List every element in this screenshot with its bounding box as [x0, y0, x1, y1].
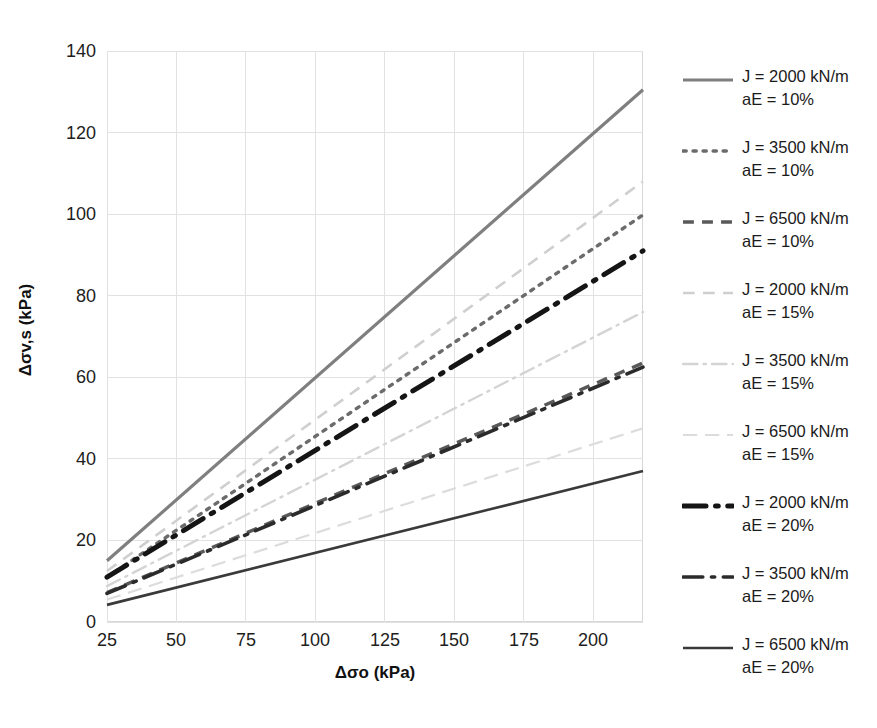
x-tick-label: 25	[77, 631, 137, 649]
legend-item[interactable]: J = 3500 kN/m aE = 20%	[660, 562, 877, 616]
y-tick-label: 120	[50, 124, 96, 142]
x-tick-label: 175	[494, 631, 554, 649]
legend-item-line1: J = 3500 kN/m	[742, 136, 877, 159]
legend-item[interactable]: J = 6500 kN/m aE = 20%	[660, 633, 877, 687]
legend-item-text: J = 2000 kN/m aE = 10%	[742, 65, 877, 111]
y-tick-label: 140	[50, 42, 96, 60]
legend-item-line1: J = 3500 kN/m	[742, 349, 877, 372]
legend-item[interactable]: J = 2000 kN/m aE = 10%	[660, 65, 877, 119]
plot-area	[107, 51, 643, 622]
legend-item-line1: J = 6500 kN/m	[742, 207, 877, 230]
legend-item-line1: J = 6500 kN/m	[742, 633, 877, 656]
legend-item-line2: aE = 15%	[742, 372, 877, 395]
legend-swatch-line	[682, 144, 734, 158]
legend-swatch-line	[682, 215, 734, 229]
legend-item-line2: aE = 10%	[742, 230, 877, 253]
y-tick-label: 20	[50, 531, 96, 549]
y-tick-label: 60	[50, 368, 96, 386]
legend-item-line1: J = 2000 kN/m	[742, 278, 877, 301]
legend-item-text: J = 2000 kN/m aE = 15%	[742, 278, 877, 324]
x-tick-label: 150	[424, 631, 484, 649]
legend-item-line2: aE = 20%	[742, 514, 877, 537]
y-tick-label: 40	[50, 450, 96, 468]
page-footer-artifact	[18, 707, 238, 719]
x-axis-title: Δσo (kPa)	[107, 663, 643, 683]
legend-item-line2: aE = 15%	[742, 301, 877, 324]
legend-swatch-line	[682, 286, 734, 300]
legend-item-text: J = 3500 kN/m aE = 10%	[742, 136, 877, 182]
x-tick-label: 200	[563, 631, 623, 649]
legend-swatch-line	[682, 641, 734, 655]
legend-item[interactable]: J = 6500 kN/m aE = 15%	[660, 420, 877, 474]
legend-item-text: J = 2000 kN/m aE = 20%	[742, 491, 877, 537]
y-tick-label: 80	[50, 287, 96, 305]
legend-item-line2: aE = 20%	[742, 656, 877, 679]
legend: J = 2000 kN/m aE = 10% J = 3500 kN/m aE …	[660, 51, 877, 651]
legend-item-line2: aE = 20%	[742, 585, 877, 608]
x-tick-label: 100	[285, 631, 345, 649]
legend-item-line1: J = 2000 kN/m	[742, 65, 877, 88]
legend-item[interactable]: J = 2000 kN/m aE = 20%	[660, 491, 877, 545]
legend-item-text: J = 3500 kN/m aE = 20%	[742, 562, 877, 608]
legend-item-line2: aE = 10%	[742, 88, 877, 111]
legend-item[interactable]: J = 3500 kN/m aE = 10%	[660, 136, 877, 190]
legend-item-line1: J = 3500 kN/m	[742, 562, 877, 585]
x-tick-label: 75	[216, 631, 276, 649]
legend-item[interactable]: J = 2000 kN/m aE = 15%	[660, 278, 877, 332]
y-tick-label: 0	[50, 613, 96, 631]
legend-item-text: J = 6500 kN/m aE = 20%	[742, 633, 877, 679]
legend-item-text: J = 6500 kN/m aE = 10%	[742, 207, 877, 253]
legend-item-line2: aE = 15%	[742, 443, 877, 466]
legend-swatch-line	[682, 499, 734, 513]
legend-item-line1: J = 6500 kN/m	[742, 420, 877, 443]
legend-item[interactable]: J = 3500 kN/m aE = 15%	[660, 349, 877, 403]
y-axis-title: Δσv,s (kPa)	[16, 260, 36, 400]
legend-swatch-line	[682, 570, 734, 584]
legend-item-line1: J = 2000 kN/m	[742, 491, 877, 514]
legend-swatch-line	[682, 428, 734, 442]
legend-item-text: J = 3500 kN/m aE = 15%	[742, 349, 877, 395]
legend-item[interactable]: J = 6500 kN/m aE = 10%	[660, 207, 877, 261]
x-tick-label: 125	[355, 631, 415, 649]
y-axis-tick-labels: 140 120 100 80 60 40 20 0	[0, 0, 96, 728]
figure-root: 140 120 100 80 60 40 20 0 25 50 75 100 1…	[0, 0, 877, 728]
legend-item-line2: aE = 10%	[742, 159, 877, 182]
y-tick-label: 100	[50, 205, 96, 223]
legend-item-text: J = 6500 kN/m aE = 15%	[742, 420, 877, 466]
legend-swatch-line	[682, 73, 734, 87]
x-tick-label: 50	[146, 631, 206, 649]
legend-swatch-line	[682, 357, 734, 371]
